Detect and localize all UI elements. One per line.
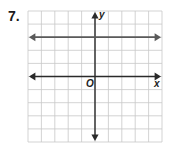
x-axis-label: x [153, 78, 160, 89]
axes [29, 12, 161, 141]
coordinate-graph: x y O [0, 0, 169, 147]
y-axis-label: y [98, 9, 105, 20]
origin-label: O [86, 78, 94, 89]
